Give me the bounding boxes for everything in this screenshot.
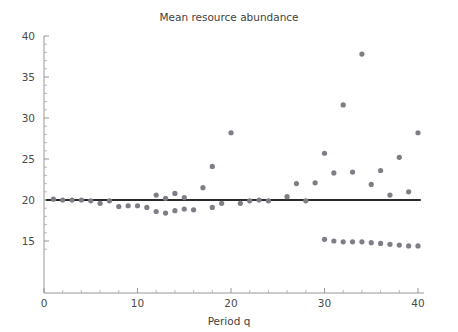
x-axis: 010203040	[41, 288, 425, 309]
data-point	[69, 197, 74, 202]
data-point	[116, 204, 121, 209]
data-point	[210, 164, 215, 169]
x-tick-label: 40	[411, 297, 424, 309]
x-axis-title: Period q	[208, 315, 251, 327]
data-point	[135, 203, 140, 208]
data-point	[378, 168, 383, 173]
data-point	[182, 206, 187, 211]
y-tick-label: 40	[22, 30, 35, 42]
data-point	[341, 239, 346, 244]
data-point	[238, 201, 243, 206]
data-point	[285, 194, 290, 199]
data-point	[144, 205, 149, 210]
data-point	[369, 182, 374, 187]
data-point	[266, 198, 271, 203]
data-point	[350, 239, 355, 244]
data-point	[313, 180, 318, 185]
data-point	[182, 195, 187, 200]
data-point	[88, 198, 93, 203]
data-point	[172, 208, 177, 213]
x-tick-label: 20	[224, 297, 237, 309]
y-tick-label: 15	[22, 235, 35, 247]
data-point	[369, 240, 374, 245]
data-point	[60, 197, 65, 202]
data-point	[341, 102, 346, 107]
data-point	[210, 205, 215, 210]
data-point	[350, 170, 355, 175]
data-point	[359, 51, 364, 56]
data-point	[415, 243, 420, 248]
y-tick-label: 20	[22, 194, 35, 206]
data-point	[331, 170, 336, 175]
y-tick-label: 35	[22, 71, 35, 83]
data-point	[397, 155, 402, 160]
data-point	[387, 192, 392, 197]
data-point	[154, 192, 159, 197]
y-tick-label: 30	[22, 112, 35, 124]
data-point	[51, 197, 56, 202]
y-tick-label: 25	[22, 153, 35, 165]
data-point	[303, 198, 308, 203]
data-point	[228, 130, 233, 135]
data-point	[406, 189, 411, 194]
data-point	[219, 201, 224, 206]
data-point	[200, 185, 205, 190]
data-point	[79, 197, 84, 202]
data-point	[387, 242, 392, 247]
data-point	[397, 243, 402, 248]
scatter-plot-figure: Mean resource abundance 152025303540 010…	[0, 0, 458, 332]
data-point	[294, 181, 299, 186]
data-point	[172, 191, 177, 196]
data-point	[322, 151, 327, 156]
data-point	[163, 196, 168, 201]
data-point	[98, 201, 103, 206]
chart-title: Mean resource abundance	[159, 11, 298, 23]
data-point	[359, 239, 364, 244]
x-tick-label: 0	[41, 297, 48, 309]
plot-canvas: Mean resource abundance 152025303540 010…	[0, 0, 458, 332]
data-point	[247, 198, 252, 203]
data-points	[51, 51, 421, 248]
data-point	[107, 198, 112, 203]
x-tick-label: 30	[318, 297, 331, 309]
data-point	[256, 197, 261, 202]
data-point	[126, 203, 131, 208]
data-point	[331, 238, 336, 243]
data-point	[163, 211, 168, 216]
y-axis: 152025303540	[22, 30, 49, 293]
data-point	[154, 209, 159, 214]
data-point	[378, 241, 383, 246]
data-point	[322, 237, 327, 242]
data-point	[191, 207, 196, 212]
data-point	[415, 130, 420, 135]
data-point	[406, 243, 411, 248]
x-tick-label: 10	[131, 297, 144, 309]
